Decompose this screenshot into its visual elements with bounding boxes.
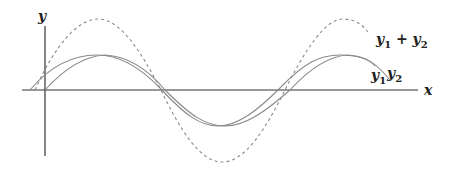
sum-label-b-sub: 2 [421,39,428,50]
y1-label-a: y [371,67,379,83]
sum-curve-label: y1 + y2 [376,32,428,50]
y-axis-label: y [38,9,46,23]
sum-label-a: y [376,31,384,47]
y1-curve-label: y1 [371,68,386,86]
y2-label-sub: 2 [395,73,402,84]
diagram-canvas [0,0,452,174]
x-axis-label: x [424,83,432,97]
y2-curve-label: y2 [387,66,402,84]
sum-label-b: y [413,31,421,47]
y2-label-a: y [387,65,395,81]
wave-superposition-diagram: y x y1 + y2 y1 y2 [0,0,452,174]
y1-label-sub: 1 [379,75,386,86]
sum-label-op: + [391,31,412,47]
